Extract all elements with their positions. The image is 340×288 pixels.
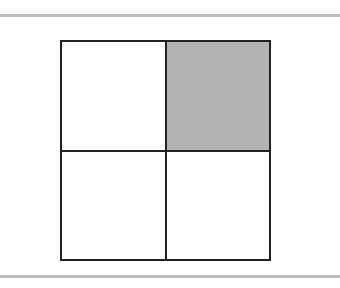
grid-diagram (60, 40, 271, 261)
grid-cell-bottom-left (62, 151, 166, 260)
grid-cell-top-left (62, 42, 166, 151)
grid-cell-bottom-right (166, 151, 270, 260)
bottom-divider (0, 275, 340, 278)
top-divider (0, 14, 340, 17)
grid-cell-top-right-shaded (166, 42, 270, 151)
